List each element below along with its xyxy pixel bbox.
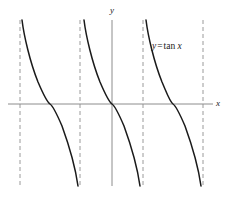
x-axis-label: x <box>216 99 220 108</box>
curve-equation-equals: = <box>156 41 163 51</box>
curve-equation-label: y=tan x <box>152 42 182 52</box>
curve-equation-x: x <box>178 41 182 51</box>
plot-canvas <box>0 0 234 200</box>
tangent-function-figure: y x y=tan x <box>0 0 234 200</box>
y-axis-label: y <box>110 6 114 15</box>
curve-equation-function: tan <box>164 41 176 51</box>
tan-branch-left <box>22 20 78 186</box>
